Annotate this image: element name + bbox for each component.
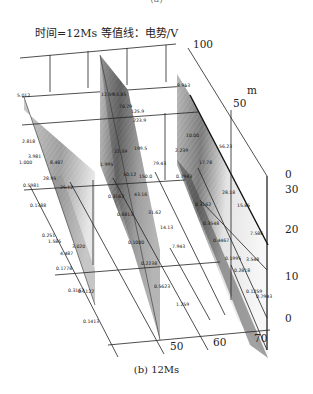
svg-text:0.1995: 0.1995 [225,256,241,261]
svg-text:28.18: 28.18 [222,190,235,195]
svg-text:3.981: 3.981 [28,154,41,159]
svg-text:31.62: 31.62 [148,210,161,215]
svg-text:56.23: 56.23 [219,144,232,149]
svg-text:1.259: 1.259 [176,302,189,307]
svg-text:15.85: 15.85 [113,92,126,97]
svg-text:2.239: 2.239 [175,148,188,153]
contour-slice-1 [24,97,95,305]
svg-text:43.16: 43.16 [134,192,147,197]
svg-text:14.13: 14.13 [160,225,173,230]
svg-text:0.7943: 0.7943 [256,294,272,299]
contour-slice-3 [177,74,268,358]
svg-text:3.020: 3.020 [72,244,85,249]
svg-text:50: 50 [170,340,183,352]
svg-text:0.1000: 0.1000 [128,240,144,245]
svg-text:0.3162: 0.3162 [195,202,211,207]
svg-text:0.5981: 0.5981 [23,183,39,188]
svg-text:0.1388: 0.1388 [30,203,46,208]
svg-text:0.251: 0.251 [42,233,55,238]
svg-text:m: m [247,84,257,96]
svg-text:1.995: 1.995 [100,162,113,167]
svg-text:0.2818: 0.2818 [234,268,250,273]
svg-text:50: 50 [233,97,246,109]
svg-text:7.586: 7.586 [250,231,263,236]
svg-text:0.3548: 0.3548 [203,221,219,226]
svg-text:0.1122: 0.1122 [78,289,94,294]
svg-text:0: 0 [285,312,292,324]
svg-text:0: 0 [285,168,292,180]
svg-text:0.6813: 0.6813 [117,212,133,217]
svg-text:28.95: 28.95 [43,176,56,181]
svg-text:0.3162: 0.3162 [108,194,124,199]
svg-text:7.943: 7.943 [172,244,185,249]
svg-text:79.43: 79.43 [153,161,166,166]
svg-text:60: 60 [213,336,226,348]
svg-text:1.585: 1.585 [48,239,61,244]
svg-text:2.818: 2.818 [22,139,35,144]
svg-text:17.78: 17.78 [199,160,212,165]
contour-3d-plot: 5.012 2.818 3.981 1.000 8.487 0.5981 28.… [0,0,313,394]
svg-text:10: 10 [285,270,298,282]
svg-text:1.000: 1.000 [19,160,32,165]
svg-text:20: 20 [285,223,298,235]
svg-text:0.1413: 0.1413 [83,319,99,324]
svg-text:4.487: 4.487 [60,251,73,256]
svg-text:0.7943: 0.7943 [176,174,192,179]
svg-text:15.85: 15.85 [237,203,250,208]
svg-text:10.00: 10.00 [186,133,199,138]
svg-text:0.5623: 0.5623 [154,284,170,289]
svg-text:3.548: 3.548 [246,257,259,262]
svg-text:0.4467: 0.4467 [213,238,229,243]
svg-text:223.9: 223.9 [133,118,146,123]
figure-caption: (b) 12Ms [0,364,313,375]
svg-text:5.012: 5.012 [17,93,30,98]
svg-text:125.9: 125.9 [131,109,144,114]
svg-text:25.12: 25.12 [60,185,73,190]
svg-text:8.487: 8.487 [50,160,63,165]
svg-text:0.2238: 0.2238 [141,261,157,266]
svg-text:30: 30 [285,183,298,195]
svg-text:150.0: 150.0 [139,174,152,179]
svg-text:100: 100 [193,38,213,50]
svg-text:70: 70 [254,332,267,344]
svg-text:50.12: 50.12 [123,172,136,177]
svg-text:22.39: 22.39 [114,149,127,154]
svg-text:199.5: 199.5 [134,146,147,151]
svg-text:8.913: 8.913 [177,83,190,88]
svg-text:0.1778: 0.1778 [56,266,72,271]
